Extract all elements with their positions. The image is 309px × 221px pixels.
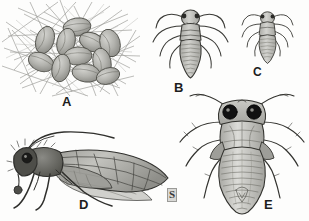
figure-a-egg-cluster <box>0 0 150 100</box>
figure-b-nymph-dorsal <box>150 4 232 84</box>
eye-right <box>247 105 261 119</box>
egg-group <box>26 16 124 87</box>
figure-c-nymph-dorsal-small <box>236 6 300 68</box>
eye-right <box>195 14 200 19</box>
eye-left <box>223 105 237 119</box>
figure-d-winged-adult-lateral <box>6 120 176 215</box>
artist-signature: S <box>167 188 177 202</box>
figure-label-d: D <box>79 198 89 211</box>
eye-right <box>271 15 275 19</box>
figure-label-c: C <box>253 66 262 78</box>
eye <box>22 153 32 163</box>
thorax <box>260 22 276 37</box>
eye-left <box>261 15 265 19</box>
eye-left <box>182 14 187 19</box>
illustration-plate: A <box>0 0 309 221</box>
figure-e-adult-dorsal <box>178 92 306 217</box>
figure-label-e: E <box>264 198 273 211</box>
figure-label-a: A <box>62 95 72 108</box>
